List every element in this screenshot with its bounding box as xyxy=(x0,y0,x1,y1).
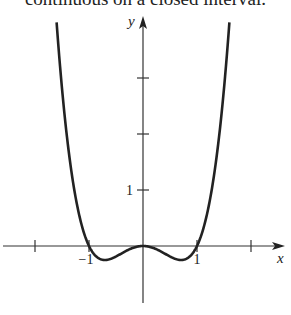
y-tick-label: 1 xyxy=(126,183,133,198)
y-axis-label: y xyxy=(126,13,135,29)
x-tick-label: −1 xyxy=(79,252,94,267)
x-axis-label: x xyxy=(276,250,284,266)
x-tick-label: 1 xyxy=(194,252,201,267)
tick-labels: −111 xyxy=(79,183,201,267)
axes: x y xyxy=(3,13,285,303)
function-graph: x y −111 xyxy=(0,0,291,315)
